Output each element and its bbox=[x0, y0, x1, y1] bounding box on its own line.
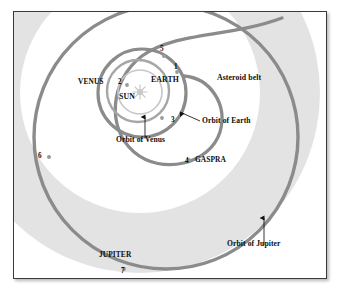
label-earth: EARTH bbox=[151, 76, 179, 84]
waypoint-marker-2 bbox=[125, 83, 129, 87]
waypoint-marker-6 bbox=[47, 155, 51, 159]
label-jupiter: JUPITER bbox=[99, 251, 131, 258]
label-orbit-of-venus: Orbit of Venus bbox=[116, 136, 165, 144]
waypoint-label-3: 3 bbox=[171, 117, 175, 124]
waypoint-label-1: 1 bbox=[174, 64, 178, 71]
label-orbit-of-earth: Orbit of Earth bbox=[202, 117, 251, 125]
waypoint-label-4: 4 bbox=[185, 158, 189, 165]
waypoint-label-7: 7 bbox=[121, 268, 125, 275]
label-venus: VENUS bbox=[78, 78, 104, 85]
label-asteroid-belt: Asteroid belt bbox=[217, 74, 261, 82]
waypoint-label-6: 6 bbox=[38, 153, 42, 160]
diagram-frame: SUN VENUS EARTH JUPITER GASPRA Asteroid … bbox=[13, 11, 327, 279]
label-gaspra: GASPRA bbox=[195, 156, 226, 163]
label-orbit-of-jupiter: Orbit of Jupiter bbox=[227, 240, 280, 248]
waypoint-label-5: 5 bbox=[160, 46, 164, 53]
waypoint-marker-5 bbox=[162, 54, 166, 58]
waypoint-label-2: 2 bbox=[118, 79, 122, 86]
solar-system-diagram: SUN VENUS EARTH JUPITER GASPRA Asteroid … bbox=[0, 0, 342, 291]
asteroid-belt-band bbox=[14, 12, 320, 273]
waypoint-marker-3 bbox=[160, 116, 164, 120]
label-sun: SUN bbox=[119, 93, 135, 101]
